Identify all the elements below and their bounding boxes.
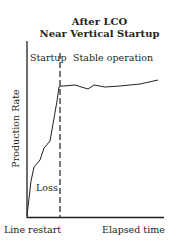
x-axis-right-label: Elapsed time <box>102 224 165 235</box>
y-axis-label: Production Rate <box>10 84 21 174</box>
region-startup-label: Startup <box>30 52 67 63</box>
chart-plot <box>0 0 171 246</box>
x-axis-left-label: Line restart <box>4 224 61 235</box>
loss-annotation: Loss <box>36 182 58 193</box>
region-stable-label: Stable operation <box>73 52 153 63</box>
